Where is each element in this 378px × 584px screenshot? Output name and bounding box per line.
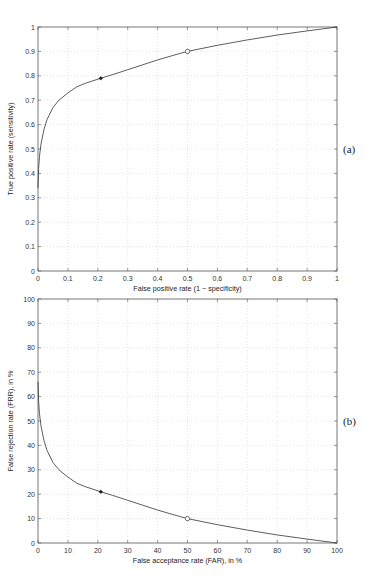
svg-text:90: 90 xyxy=(303,547,311,554)
circle-marker xyxy=(185,516,189,520)
svg-text:0: 0 xyxy=(36,275,40,282)
svg-text:0.7: 0.7 xyxy=(25,97,35,104)
svg-text:0.9: 0.9 xyxy=(302,275,312,282)
svg-text:0.4: 0.4 xyxy=(25,170,35,177)
svg-text:10: 10 xyxy=(64,547,72,554)
svg-text:20: 20 xyxy=(27,491,35,498)
svg-text:0.8: 0.8 xyxy=(272,275,282,282)
svg-text:0.9: 0.9 xyxy=(25,48,35,55)
x-axis-label: False acceptance rate (FAR), in % xyxy=(133,556,243,565)
svg-text:0: 0 xyxy=(31,268,35,275)
panel-label: (a) xyxy=(343,143,356,156)
svg-text:30: 30 xyxy=(124,547,132,554)
figure: 00.10.20.30.40.50.60.70.80.9100.10.20.30… xyxy=(0,0,378,584)
svg-text:100: 100 xyxy=(331,547,343,554)
svg-text:1: 1 xyxy=(31,24,35,31)
svg-text:20: 20 xyxy=(94,547,102,554)
svg-text:0.6: 0.6 xyxy=(25,121,35,128)
svg-text:0.5: 0.5 xyxy=(183,275,193,282)
svg-text:50: 50 xyxy=(184,547,192,554)
svg-text:0.2: 0.2 xyxy=(25,219,35,226)
svg-text:30: 30 xyxy=(27,466,35,473)
tick-labels: 0102030405060708090100010203040506070809… xyxy=(23,296,343,555)
svg-text:0.3: 0.3 xyxy=(123,275,133,282)
svg-text:50: 50 xyxy=(27,418,35,425)
svg-text:60: 60 xyxy=(214,547,222,554)
svg-text:40: 40 xyxy=(154,547,162,554)
svg-text:10: 10 xyxy=(27,515,35,522)
svg-text:0.8: 0.8 xyxy=(25,72,35,79)
svg-text:0.4: 0.4 xyxy=(153,275,163,282)
grid-lines xyxy=(38,299,337,543)
svg-text:40: 40 xyxy=(27,442,35,449)
svg-text:1: 1 xyxy=(335,275,339,282)
svg-text:0.6: 0.6 xyxy=(213,275,223,282)
svg-text:0.2: 0.2 xyxy=(93,275,103,282)
det-chart: 0102030405060708090100010203040506070809… xyxy=(6,296,356,566)
svg-text:0.5: 0.5 xyxy=(25,146,35,153)
svg-text:70: 70 xyxy=(27,369,35,376)
svg-text:0.3: 0.3 xyxy=(25,194,35,201)
svg-text:0.7: 0.7 xyxy=(242,275,252,282)
svg-text:0: 0 xyxy=(31,540,35,547)
tick-labels: 00.10.20.30.40.50.60.70.80.9100.10.20.30… xyxy=(25,24,339,283)
svg-text:0.1: 0.1 xyxy=(63,275,73,282)
svg-text:70: 70 xyxy=(243,547,251,554)
svg-text:80: 80 xyxy=(27,344,35,351)
svg-text:90: 90 xyxy=(27,320,35,327)
svg-text:100: 100 xyxy=(23,296,35,303)
panel-label: (b) xyxy=(343,415,356,428)
circle-marker xyxy=(185,49,189,53)
svg-text:0.1: 0.1 xyxy=(25,243,35,250)
grid-lines xyxy=(38,27,337,271)
svg-text:0: 0 xyxy=(36,547,40,554)
roc-chart: 00.10.20.30.40.50.60.70.80.9100.10.20.30… xyxy=(6,24,356,294)
x-axis-label: False positive rate (1 − specificity) xyxy=(133,284,241,293)
svg-text:60: 60 xyxy=(27,393,35,400)
y-axis-label: True positive rate (sensitivity) xyxy=(6,102,15,195)
svg-text:80: 80 xyxy=(273,547,281,554)
y-axis-label: False rejection rate (FRR), in % xyxy=(6,370,15,471)
